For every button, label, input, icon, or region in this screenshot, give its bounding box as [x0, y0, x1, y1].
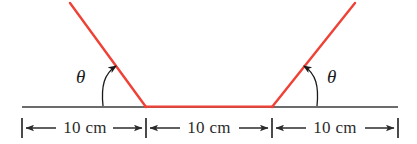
dim-label-right: 10 cm: [309, 118, 361, 138]
dim-label-left: 10 cm: [59, 118, 111, 138]
theta-left-arc-arrow: [102, 66, 116, 106]
left-ramp-line: [70, 3, 146, 107]
diagram-container: θ θ 10 cm 10 cm 10 cm: [0, 0, 417, 144]
theta-right-arc-arrow: [304, 66, 318, 106]
right-ramp-line: [272, 3, 355, 107]
theta-left-label: θ: [76, 66, 85, 88]
theta-right-label: θ: [327, 66, 336, 88]
dim-label-middle: 10 cm: [183, 118, 235, 138]
